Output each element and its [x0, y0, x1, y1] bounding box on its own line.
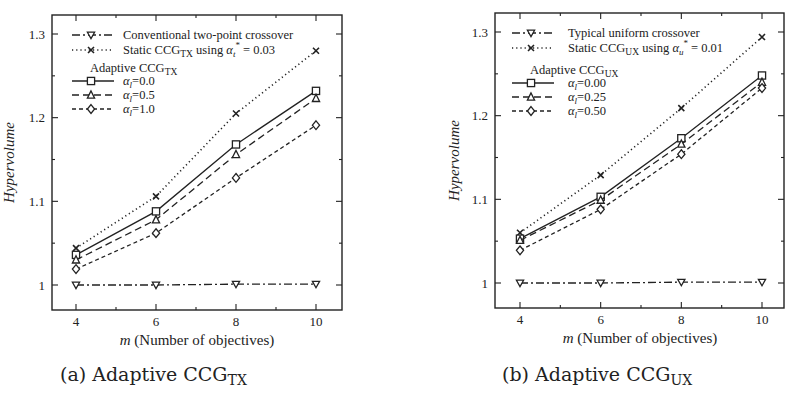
y-axis-title: Hypervolume: [446, 120, 462, 202]
triangle-up-marker-icon: [312, 94, 319, 101]
y-tick-label: 1: [482, 276, 489, 291]
diamond-marker-icon: [72, 265, 79, 274]
series-line: [76, 125, 316, 269]
legend: Typical uniform crossoverStatic CCGUX us…: [512, 26, 723, 120]
x-tick-label: 4: [73, 314, 80, 329]
series-line: [520, 82, 762, 240]
series-line: [76, 91, 316, 255]
triangle-up-marker-icon: [152, 216, 159, 223]
legend: Conventional two-point crossoverStatic C…: [72, 28, 294, 118]
square-marker-icon: [527, 79, 534, 86]
y-tick-label: 1.3: [472, 25, 488, 40]
y-axis-title: Hypervolume: [1, 122, 17, 204]
figure: 11.11.21.346810m (Number of objectives)H…: [0, 0, 788, 410]
legend-label: Typical uniform crossover: [568, 26, 701, 40]
series-group: [72, 48, 319, 289]
diamond-marker-icon: [516, 246, 523, 255]
y-tick-label: 1.2: [29, 110, 45, 125]
plot-frame: [495, 13, 784, 308]
x-axis-title: m (Number of objectives): [563, 330, 718, 347]
x-tick-label: 6: [153, 314, 160, 329]
figure-caption: (a) Adaptive CCGTX: [60, 363, 247, 388]
x-tick-label: 4: [517, 312, 524, 327]
series-line: [520, 88, 762, 250]
x-marker-icon: [678, 105, 684, 111]
square-marker-icon: [232, 141, 239, 148]
series-line: [520, 282, 762, 283]
x-marker-icon: [598, 172, 604, 178]
y-tick-label: 1.2: [472, 108, 488, 123]
y-tick-label: 1.1: [472, 192, 488, 207]
legend-label: Static CCGTX using αt* = 0.03: [123, 40, 275, 59]
triangle-down-marker-icon: [597, 280, 604, 286]
triangle-down-marker-icon: [72, 282, 79, 288]
triangle-down-marker-icon: [232, 281, 239, 287]
diamond-marker-icon: [678, 150, 685, 159]
triangle-down-marker-icon: [758, 279, 765, 285]
y-tick-label: 1: [39, 278, 46, 293]
diamond-marker-icon: [152, 229, 159, 238]
x-axis-title: m (Number of objectives): [120, 332, 275, 349]
diamond-marker-icon: [597, 205, 604, 214]
diamond-marker-icon: [232, 174, 239, 183]
legend-label: αl=0.50: [568, 104, 606, 120]
chart-panel-a: 11.11.21.346810m (Number of objectives)H…: [1, 15, 342, 388]
x-marker-icon: [759, 34, 765, 40]
triangle-up-marker-icon: [87, 91, 94, 98]
x-tick-label: 10: [756, 312, 769, 327]
legend-label: Conventional two-point crossover: [123, 28, 294, 42]
figure-caption: (b) Adaptive CCGUX: [502, 363, 692, 388]
diamond-marker-icon: [527, 107, 534, 116]
x-tick-label: 8: [678, 312, 685, 327]
triangle-down-marker-icon: [527, 30, 534, 36]
x-tick-label: 8: [233, 314, 240, 329]
triangle-down-marker-icon: [152, 282, 159, 288]
triangle-down-marker-icon: [87, 32, 94, 38]
legend-label: Static CCGUX using αu* = 0.01: [568, 38, 723, 57]
x-axis: 46810: [517, 13, 769, 327]
plot-frame: [52, 15, 342, 310]
x-tick-label: 6: [597, 312, 604, 327]
triangle-down-marker-icon: [516, 280, 523, 286]
chart-panel-b: 11.11.21.346810m (Number of objectives)H…: [446, 13, 784, 388]
x-tick-label: 10: [310, 314, 323, 329]
legend-label: αl=1.0: [123, 102, 155, 118]
series-line: [76, 284, 316, 285]
x-marker-icon: [73, 245, 79, 251]
triangle-down-marker-icon: [678, 279, 685, 285]
diamond-marker-icon: [87, 105, 94, 114]
x-marker-icon: [313, 48, 319, 54]
x-marker-icon: [153, 193, 159, 199]
y-tick-label: 1.1: [29, 194, 45, 209]
series-line: [520, 76, 762, 239]
triangle-down-marker-icon: [312, 281, 319, 287]
square-marker-icon: [87, 77, 94, 84]
y-tick-label: 1.3: [29, 27, 45, 42]
square-marker-icon: [152, 208, 159, 215]
diamond-marker-icon: [312, 121, 319, 130]
triangle-up-marker-icon: [527, 93, 534, 100]
x-marker-icon: [233, 110, 239, 116]
triangle-up-marker-icon: [232, 150, 239, 157]
